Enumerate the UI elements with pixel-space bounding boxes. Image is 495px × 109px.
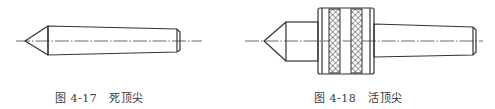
figure-number: 图 4-17	[55, 92, 97, 105]
figure-live-center: 图 4-18活顶尖	[245, 0, 495, 109]
tapered-shank	[48, 26, 180, 55]
cone-tip	[264, 22, 286, 61]
figure-title: 死顶尖	[109, 92, 144, 105]
knurled-band-2	[351, 9, 362, 73]
tapered-shank	[374, 24, 476, 57]
nose-cylinder	[286, 22, 318, 61]
figure-caption: 图 4-18活顶尖	[314, 89, 403, 105]
figure-caption: 图 4-17死顶尖	[55, 89, 144, 105]
figure-title: 活顶尖	[368, 92, 403, 105]
figure-dead-center: 图 4-17死顶尖	[0, 0, 245, 109]
figure-number: 图 4-18	[314, 92, 356, 105]
knurled-band-1	[329, 9, 340, 73]
cone-tip	[25, 26, 48, 55]
